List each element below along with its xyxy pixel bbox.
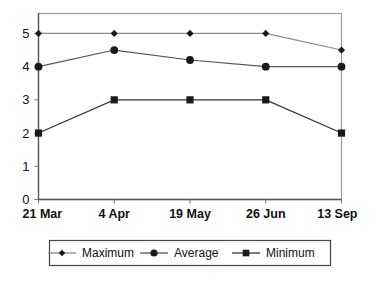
chart-legend: MaximumAverageMinimum (48, 241, 331, 266)
circle-marker (35, 63, 43, 71)
circle-marker (150, 249, 157, 256)
square-marker (186, 96, 193, 103)
line-chart: 012345 21 Mar4 Apr19 May26 Jun13 Sep Max… (0, 0, 378, 283)
y-tick-label: 2 (22, 126, 29, 141)
y-tick-label: 3 (22, 92, 29, 107)
square-marker (338, 129, 345, 136)
x-tick-label: 13 Sep (317, 207, 358, 221)
x-tick-label: 21 Mar (23, 207, 63, 221)
circle-marker (110, 46, 118, 54)
circle-marker (262, 63, 270, 71)
x-tick-label: 19 May (169, 207, 211, 221)
square-marker (243, 250, 250, 257)
square-marker (35, 129, 42, 136)
circle-marker (186, 56, 194, 64)
y-tick-label: 4 (22, 59, 29, 74)
y-tick-label: 5 (22, 26, 29, 41)
circle-marker (338, 63, 346, 71)
x-tick-label: 26 Jun (246, 207, 286, 221)
y-tick-label: 1 (22, 159, 29, 174)
legend-label: Average (174, 246, 219, 260)
chart-canvas: 012345 21 Mar4 Apr19 May26 Jun13 Sep Max… (0, 0, 378, 283)
legend-label: Minimum (266, 246, 315, 260)
square-marker (262, 96, 269, 103)
legend-label: Maximum (82, 246, 134, 260)
x-tick-label: 4 Apr (99, 207, 131, 221)
legend-items: MaximumAverageMinimum (48, 246, 315, 260)
y-tick-label: 0 (22, 192, 29, 207)
square-marker (111, 96, 118, 103)
